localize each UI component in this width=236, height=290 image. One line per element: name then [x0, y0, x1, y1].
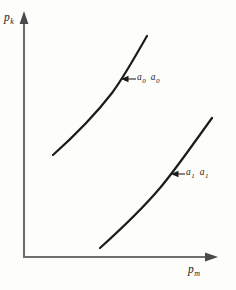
curve-a1-subscript-1: 1: [191, 172, 195, 180]
curve-a0-symbol-2: a: [151, 72, 156, 82]
curve-a1: [100, 118, 212, 248]
y-axis-symbol: p: [4, 11, 10, 23]
y-axis-subscript: k: [10, 17, 14, 26]
curve-a0: [53, 36, 147, 155]
x-axis-label: pm: [188, 264, 200, 276]
y-axis-label: pk: [4, 12, 13, 24]
x-axis-subscript: m: [194, 269, 200, 278]
x-axis-arrowhead-icon: [205, 253, 218, 262]
figure-container: pk pm a0a0 a1a1: [0, 0, 236, 290]
curve-a1-symbol-2: a: [200, 167, 205, 177]
curve-a0-subscript-1: 0: [142, 77, 146, 85]
y-axis-arrowhead-icon: [20, 11, 29, 24]
curve-a0-subscript-2: 0: [156, 77, 160, 85]
curve-label-a1: a1a1: [186, 168, 208, 178]
curve-a1-subscript-2: 1: [205, 172, 209, 180]
x-axis-symbol: p: [188, 263, 194, 275]
curve-label-a0: a0a0: [137, 73, 159, 83]
diagram-canvas: [0, 0, 236, 290]
